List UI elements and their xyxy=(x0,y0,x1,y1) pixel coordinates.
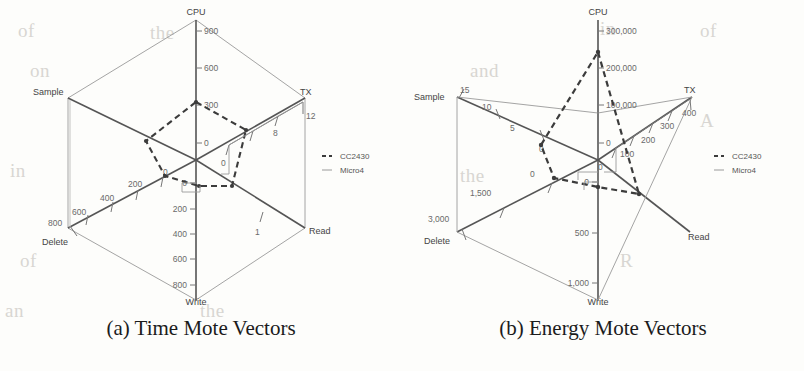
legend-label-cc2430-b: CC2430 xyxy=(732,152,762,161)
tick-sample-15-b: 15 xyxy=(460,85,470,95)
tick-cpu-300000-b: 300,000 xyxy=(606,26,637,36)
series-micro4-b xyxy=(457,97,692,300)
axis-spokes-b xyxy=(457,20,692,300)
tick-write-200-a: 200 xyxy=(173,204,187,214)
axis-read-a: 1 Read xyxy=(255,212,331,237)
axis-write-a: 0 200 400 600 800 Write xyxy=(173,178,207,307)
axis-read-b: Read xyxy=(688,232,710,242)
axis-label-cpu-b: CPU xyxy=(588,7,607,17)
tick-cpu-900-a: 900 xyxy=(204,26,218,36)
tick-write-500-b: 500 xyxy=(575,228,589,238)
axis-label-delete-a: Delete xyxy=(42,237,68,247)
tick-cpu-0-a: 0 xyxy=(204,138,209,148)
axis-cpu-a: 900 600 300 0 CPU xyxy=(186,7,218,148)
radar-chart-time: 900 600 300 0 CPU 0 8 12 TX 1 xyxy=(0,0,402,316)
figure-pair: 900 600 300 0 CPU 0 8 12 TX 1 xyxy=(0,0,804,371)
tick-tx-200-b: 200 xyxy=(641,135,655,145)
tick-delete-200-a: 200 xyxy=(128,179,142,189)
axis-label-sample-b: Sample xyxy=(414,92,445,102)
axis-label-tx-b: TX xyxy=(684,85,696,95)
tick-write-400-a: 400 xyxy=(173,229,187,239)
axis-tx-b: 0 100 200 300 400 TX xyxy=(598,85,696,172)
axis-label-read-a: Read xyxy=(309,226,331,236)
tick-write-600-a: 600 xyxy=(173,254,187,264)
tick-write-800-a: 800 xyxy=(173,280,187,290)
axis-label-delete-b: Delete xyxy=(424,236,450,246)
tick-delete-800-a: 800 xyxy=(48,218,62,228)
legend-label-micro4-b: Micro4 xyxy=(732,166,757,175)
tick-cpu-0-b: 0 xyxy=(606,138,611,148)
tick-cpu-200000-b: 200,000 xyxy=(606,63,637,73)
tick-sample-5-b: 5 xyxy=(510,123,515,133)
tick-delete-400-a: 400 xyxy=(100,193,114,203)
tick-write-1000-b: 1,000 xyxy=(568,278,590,288)
axis-label-cpu-a: CPU xyxy=(186,7,205,17)
tick-tx-0-b: 0 xyxy=(598,162,603,172)
axis-delete-a: 0 200 400 600 800 Delete xyxy=(42,167,168,247)
figure-caption-b: (b) Energy Mote Vectors xyxy=(402,316,804,341)
axis-cpu-b: 300,000 200,000 100,000 0 CPU xyxy=(588,7,637,148)
axis-label-read-b: Read xyxy=(688,232,710,242)
figure-caption-a: (a) Time Mote Vectors xyxy=(0,316,402,341)
axis-write-b: 0 500 1,000 Write xyxy=(568,177,609,307)
figure-a: 900 600 300 0 CPU 0 8 12 TX 1 xyxy=(0,0,402,371)
axis-label-write-a: Write xyxy=(186,297,207,307)
tick-cpu-600-a: 600 xyxy=(204,63,218,73)
axis-sample-b: 0 5 10 15 Sample xyxy=(414,85,544,154)
legend-label-cc2430-a: CC2430 xyxy=(340,152,370,161)
tick-cpu-100000-b: 100,000 xyxy=(606,100,637,110)
tick-tx-0-a: 0 xyxy=(221,158,226,168)
tick-tx-8-a: 8 xyxy=(273,128,278,138)
tick-tx-300-b: 300 xyxy=(660,121,674,131)
legend-label-micro4-a: Micro4 xyxy=(340,166,365,175)
axis-label-write-b: Write xyxy=(588,297,609,307)
axis-sample-a: Sample xyxy=(33,87,70,228)
figure-b: 300,000 200,000 100,000 0 CPU 0 100 200 … xyxy=(402,0,804,371)
axis-label-tx-a: TX xyxy=(300,87,312,97)
legend-a: CC2430 Micro4 xyxy=(322,152,370,175)
tick-delete-1500-b: 1,500 xyxy=(470,188,492,198)
radar-chart-energy: 300,000 200,000 100,000 0 CPU 0 100 200 … xyxy=(402,0,804,316)
tick-sample-10-b: 10 xyxy=(482,102,492,112)
axis-delete-b: 0 1,500 3,000 Delete xyxy=(424,169,552,246)
tick-delete-0-b: 0 xyxy=(530,169,535,179)
tick-delete-600-a: 600 xyxy=(72,207,86,217)
tick-read-1-a: 1 xyxy=(255,227,260,237)
legend-b: CC2430 Micro4 xyxy=(714,152,762,175)
tick-tx-400-b: 400 xyxy=(682,108,696,118)
tick-tx-12-a: 12 xyxy=(306,111,316,121)
axis-label-sample-a: Sample xyxy=(33,87,64,97)
tick-delete-3000-b: 3,000 xyxy=(428,214,450,224)
